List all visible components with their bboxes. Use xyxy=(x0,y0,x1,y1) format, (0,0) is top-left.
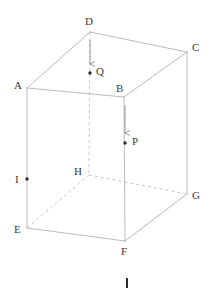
vertex-label-A: A xyxy=(14,80,22,91)
bottom-tick-mark xyxy=(126,278,128,288)
vertex-label-D: D xyxy=(85,16,93,27)
hidden-edges xyxy=(27,32,187,228)
vertex-label-E: E xyxy=(14,224,21,235)
edge-D-C xyxy=(90,32,187,52)
point-label-I: I xyxy=(15,174,19,185)
point-label-P: P xyxy=(132,136,138,147)
visible-edges xyxy=(27,32,187,241)
point-label-Q: Q xyxy=(96,66,104,77)
edge-F-G xyxy=(125,194,187,241)
prism-drawing xyxy=(0,0,213,299)
edge-E-F xyxy=(27,228,125,241)
point-dot-I xyxy=(25,177,28,180)
edge-A-D xyxy=(27,32,90,88)
edge-H-E xyxy=(27,175,89,228)
point-dot-P xyxy=(123,141,126,144)
vertex-label-G: G xyxy=(192,190,200,201)
point-dot-Q xyxy=(88,71,91,74)
edge-A-B xyxy=(27,88,124,97)
vertex-label-H: H xyxy=(74,166,82,177)
vertex-label-F: F xyxy=(121,246,127,257)
edge-B-C xyxy=(124,52,187,97)
vertex-label-B: B xyxy=(116,83,123,94)
geometry-figure: A B C D E F G H P Q I xyxy=(0,0,213,299)
vertex-label-C: C xyxy=(192,42,199,53)
edge-H-G xyxy=(89,175,187,194)
